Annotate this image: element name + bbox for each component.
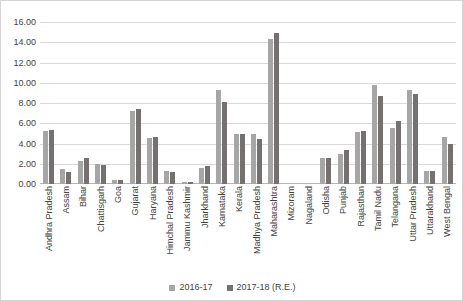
x-axis-tick-label: Gujarat [131, 186, 140, 216]
bar [222, 102, 227, 184]
bar [60, 169, 65, 184]
bar-group [421, 22, 438, 184]
bar-group [352, 22, 369, 184]
x-axis-tick-label: Mizoram [287, 186, 296, 221]
bar [164, 171, 169, 184]
x-axis-tick: Assam [57, 186, 74, 268]
bar-group [109, 22, 126, 184]
x-axis-tick-label: Madhya Pradesh [252, 186, 261, 254]
x-axis-tick-label: Goa [113, 186, 122, 203]
y-axis-tick-label: 8.00 [18, 99, 36, 108]
bar [338, 154, 343, 184]
x-axis-tick-label: Himchal Pradesh [165, 186, 174, 255]
legend-item[interactable]: 2017-18 (R.E.) [227, 283, 296, 292]
x-axis-tick: Mizoram [283, 186, 300, 268]
bar [361, 131, 366, 184]
bar [112, 180, 117, 184]
legend-label: 2017-18 (R.E.) [237, 283, 296, 292]
bar [240, 134, 245, 184]
x-axis-tick-label: Telangana [391, 186, 400, 228]
x-axis-tick-label: Assam [61, 186, 70, 214]
bar-group [248, 22, 265, 184]
bar [130, 111, 135, 184]
bars-layer [40, 22, 456, 184]
bar [170, 172, 175, 184]
x-axis-tick: Uttarakhand [421, 186, 438, 268]
bar [274, 33, 279, 184]
x-axis-tick: Odisha [317, 186, 334, 268]
x-axis-tick: Goa [109, 186, 126, 268]
bar-group [231, 22, 248, 184]
bar [251, 134, 256, 184]
y-axis-tick-label: 4.00 [18, 139, 36, 148]
x-axis-tick-label: Odisha [321, 186, 330, 215]
x-axis-tick: Karnataka [213, 186, 230, 268]
y-axis-tick-label: 12.00 [13, 58, 36, 67]
bar [216, 90, 221, 184]
bar [424, 171, 429, 184]
x-axis-tick: Andhra Pradesh [40, 186, 57, 268]
bar-group [439, 22, 456, 184]
x-axis-tick-label: Nagaland [304, 186, 313, 225]
bar [268, 39, 273, 184]
bar-group [317, 22, 334, 184]
bar-group [127, 22, 144, 184]
bar [153, 137, 158, 184]
x-axis-tick: Bihar [75, 186, 92, 268]
legend-label: 2016-17 [179, 283, 212, 292]
bar [49, 130, 54, 184]
x-axis-tick-label: Karnataka [217, 186, 226, 227]
legend-item[interactable]: 2016-17 [169, 283, 212, 292]
bar-group [404, 22, 421, 184]
bar [448, 144, 453, 185]
x-axis-tick-label: Punjab [339, 186, 348, 214]
x-axis-tick: Gujarat [127, 186, 144, 268]
bar-group [196, 22, 213, 184]
x-axis-tick: Kerala [231, 186, 248, 268]
bar [442, 137, 447, 184]
bar [78, 161, 83, 184]
x-axis-tick-label: Jammu Kashmir [183, 186, 192, 251]
x-axis-tick: Haryana [144, 186, 161, 268]
x-axis-tick-label: Rajasthan [356, 186, 365, 227]
y-axis-tick-label: 0.00 [18, 180, 36, 189]
y-axis-tick-label: 10.00 [13, 78, 36, 87]
x-axis-tick: Chattisgarh [92, 186, 109, 268]
x-axis-tick: Telangana [387, 186, 404, 268]
bar [118, 180, 123, 184]
bar [390, 128, 395, 184]
x-axis-tick-label: Chattisgarh [96, 186, 105, 232]
x-axis-tick-label: Andhra Pradesh [44, 186, 53, 251]
x-axis-tick-label: Uttarakhand [425, 186, 434, 235]
bar-group [335, 22, 352, 184]
bar [43, 131, 48, 184]
x-axis-tick: Jammu Kashmir [179, 186, 196, 268]
bar-group [57, 22, 74, 184]
bar [344, 150, 349, 184]
bar [378, 96, 383, 184]
bar-group [75, 22, 92, 184]
y-axis: 0.002.004.006.008.0010.0012.0014.0016.00 [1, 22, 36, 184]
bar [188, 182, 193, 184]
x-axis-tick-label: Jharkhand [200, 186, 209, 228]
bar [355, 132, 360, 184]
bar-group [179, 22, 196, 184]
x-axis-tick: Madhya Pradesh [248, 186, 265, 268]
x-axis-tick-label: Kerala [235, 186, 244, 212]
bar-group [387, 22, 404, 184]
bar [101, 165, 106, 184]
bar-group [92, 22, 109, 184]
bar-group [161, 22, 178, 184]
bar [234, 134, 239, 184]
bar-group [40, 22, 57, 184]
x-axis-tick: Jharkhand [196, 186, 213, 268]
y-axis-tick-label: 2.00 [18, 159, 36, 168]
x-axis-tick: Uttar Pradesh [404, 186, 421, 268]
legend-swatch [169, 285, 175, 291]
bar [95, 164, 100, 184]
bar [372, 85, 377, 184]
bar [413, 94, 418, 184]
bar-group [144, 22, 161, 184]
x-axis: Andhra PradeshAssamBiharChattisgarhGoaGu… [40, 186, 456, 268]
y-axis-tick-label: 14.00 [13, 38, 36, 47]
